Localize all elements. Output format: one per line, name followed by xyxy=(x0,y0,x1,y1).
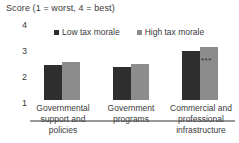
bar-group-governmental-support-and-policies xyxy=(44,1,80,100)
category-label-government-programs: Government programs xyxy=(96,103,166,125)
bar-chart: Score (1 = worst, 4 = best) 4 3 2 1 Low … xyxy=(0,0,239,143)
bar-high-tax-morale-2 xyxy=(131,64,149,100)
category-label-line: policies xyxy=(28,125,98,136)
category-label-line: infrastructure xyxy=(164,125,238,136)
y-tick-4: 4 xyxy=(16,21,27,30)
significance-marker-group3: *** xyxy=(201,58,212,64)
category-label-commercial-and-professional-infrastructure: Commercial and professional infrastructu… xyxy=(164,103,238,136)
x-axis-category-labels: Governmental support and policies Govern… xyxy=(30,103,235,143)
y-tick-3: 3 xyxy=(16,47,27,56)
category-label-line: Commercial and xyxy=(164,103,238,114)
plot-area: *** xyxy=(30,21,233,100)
category-label-line: professional xyxy=(164,114,238,125)
category-label-governmental-support-and-policies: Governmental support and policies xyxy=(28,103,98,136)
bar-high-tax-morale-3 xyxy=(200,47,218,100)
y-tick-1: 1 xyxy=(16,99,27,108)
bar-low-tax-morale-2 xyxy=(113,67,131,100)
bar-high-tax-morale-1 xyxy=(62,62,80,100)
y-tick-2: 2 xyxy=(16,73,27,82)
bar-low-tax-morale-1 xyxy=(44,65,62,100)
bar-group-government-programs xyxy=(113,1,149,100)
bar-group-commercial-and-professional-infrastructure xyxy=(182,1,218,100)
category-label-line: programs xyxy=(96,114,166,125)
category-label-line: Government xyxy=(96,103,166,114)
category-label-line: Governmental xyxy=(28,103,98,114)
category-label-line: support and xyxy=(28,114,98,125)
bar-low-tax-morale-3 xyxy=(182,51,200,100)
